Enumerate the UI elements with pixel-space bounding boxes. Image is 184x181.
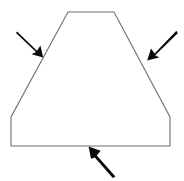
shape-diagram-svg	[0, 0, 184, 181]
figure-canvas	[0, 0, 184, 181]
